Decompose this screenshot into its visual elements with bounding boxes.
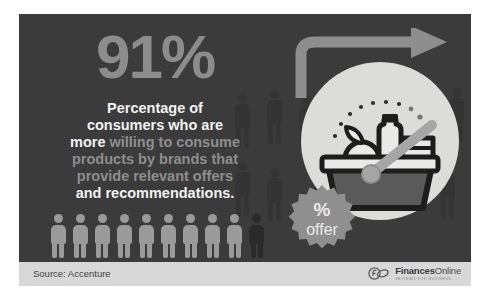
infographic-card: % offer 91% Percentage of consumers who … (19, 14, 471, 262)
statement-line-2: consumers who are (39, 117, 271, 134)
source-label: Source: Accenture (33, 268, 111, 279)
statement-line-4: products by brands that (39, 151, 271, 168)
pictogram-figures (50, 212, 265, 258)
footer-bar: Source: Accenture FinancesOnline REVIEWS… (19, 262, 471, 286)
statement-line-3: more willing to consume (39, 134, 271, 151)
statement-line-1: Percentage of (39, 100, 271, 117)
person-icon-inactive (249, 214, 265, 258)
statement-line-3-rest: willing to consume (105, 134, 240, 150)
statement-line-6: and recommendations. (39, 185, 271, 202)
brand-name-bold: Finances (395, 265, 435, 276)
person-icon (72, 214, 88, 258)
offer-badge: % offer (286, 183, 358, 255)
person-icon (205, 214, 221, 258)
statement-emphasis: more (70, 134, 105, 150)
badge-percent-symbol: % (314, 200, 331, 219)
page-title-stat: 91% (55, 26, 255, 88)
brand-logo: FinancesOnline REVIEWS FOR BUSINESS (368, 266, 461, 281)
brand-tagline: REVIEWS FOR BUSINESS (395, 278, 461, 282)
brand-name: FinancesOnline (395, 266, 461, 276)
financesonline-logo-icon (368, 266, 390, 281)
person-icon (94, 214, 110, 258)
person-icon (161, 214, 177, 258)
person-icon (227, 214, 243, 258)
brand-name-light: Online (435, 265, 461, 276)
person-icon (138, 214, 154, 258)
person-icon (50, 214, 66, 258)
statement-line-5: provide relevant offers (39, 168, 271, 185)
statement-text: Percentage of consumers who are more wil… (39, 100, 271, 202)
person-icon (116, 214, 132, 258)
person-icon (183, 214, 199, 258)
infographic-root: % offer 91% Percentage of consumers who … (0, 0, 492, 298)
badge-offer-label: offer (306, 222, 338, 238)
brand-text: FinancesOnline REVIEWS FOR BUSINESS (395, 266, 461, 281)
